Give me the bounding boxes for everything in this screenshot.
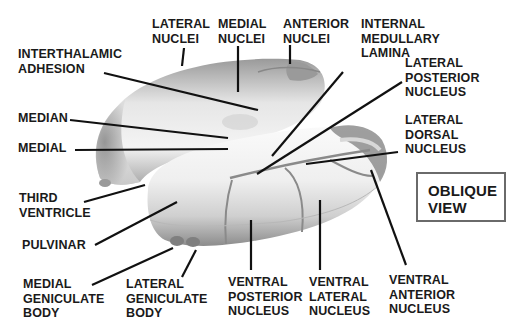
label-lateral-dorsal-nucleus: LATERAL DORSAL NUCLEUS xyxy=(405,113,466,157)
label-ventral-posterior-nucleus: VENTRAL POSTERIOR NUCLEUS xyxy=(228,275,303,319)
label-lateral-geniculate-body: LATERAL GENICULATE BODY xyxy=(126,277,207,321)
label-interthalamic-adhesion: INTERTHALAMIC ADHESION xyxy=(18,47,122,76)
oblique-view-box: OBLIQUE VIEW xyxy=(416,172,506,222)
medial-geniculate-bump xyxy=(170,236,184,246)
label-medial: MEDIAL xyxy=(18,141,67,156)
label-ventral-anterior-nucleus: VENTRAL ANTERIOR NUCLEUS xyxy=(389,273,455,317)
label-medial-geniculate-body: MEDIAL GENICULATE BODY xyxy=(23,277,104,321)
thalamus-diagram: LATERAL NUCLEI MEDIAL NUCLEI ANTERIOR NU… xyxy=(0,0,521,334)
label-third-ventricle: THIRD VENTRICLE xyxy=(19,191,91,220)
lateral-geniculate-bump xyxy=(186,237,200,247)
label-internal-medullary-lamina: INTERNAL MEDULLARY LAMINA xyxy=(361,17,440,61)
label-pulvinar: PULVINAR xyxy=(22,238,86,253)
label-lateral-nuclei: LATERAL NUCLEI xyxy=(152,17,210,46)
clipped-header xyxy=(0,0,140,4)
label-ventral-lateral-nucleus: VENTRAL LATERAL NUCLEUS xyxy=(309,275,370,319)
label-anterior-nuclei: ANTERIOR NUCLEI xyxy=(283,17,349,46)
label-median: MEDIAN xyxy=(18,111,68,126)
label-lateral-posterior-nucleus: LATERAL POSTERIOR NUCLEUS xyxy=(405,56,480,100)
view-label: OBLIQUE VIEW xyxy=(428,182,497,216)
label-medial-nuclei: MEDIAL NUCLEI xyxy=(218,17,267,46)
